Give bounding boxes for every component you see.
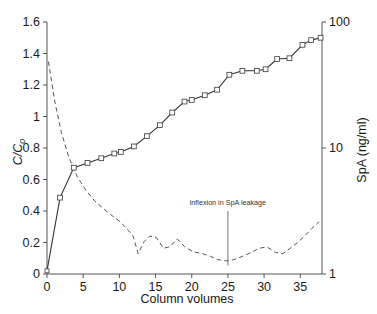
left-tick-label: 1.6 [23, 15, 40, 29]
left-axis-tick-labels: 00.20.40.60.811.21.41.6 [23, 15, 40, 281]
left-tick-label: 0 [33, 267, 40, 281]
data-point-marker [275, 57, 280, 62]
data-point-marker [118, 150, 123, 155]
annotation-inflexion: inflexion in SpA leakage [190, 198, 266, 266]
y-axis-left-title-subscript: o [17, 139, 27, 144]
data-point-marker [131, 144, 136, 149]
right-axis-ticks [322, 22, 326, 274]
chart-container: 00.20.40.60.811.21.41.6 110100 051015202… [0, 0, 377, 314]
axis-left: 00.20.40.60.811.21.41.6 [23, 15, 47, 281]
data-point-marker [85, 161, 90, 166]
left-tick-label: 1.4 [23, 47, 40, 61]
right-axis-tick-labels: 110100 [329, 15, 350, 281]
left-tick-label: 1.2 [23, 78, 40, 92]
left-tick-label: 1 [33, 110, 40, 124]
data-point-marker [144, 134, 149, 139]
y-axis-right-title: SpA (ng/ml) [355, 117, 369, 182]
x-tick-label: 0 [44, 280, 51, 294]
data-point-marker [170, 110, 175, 115]
data-point-marker [157, 123, 162, 128]
data-point-marker [45, 269, 49, 273]
data-point-marker [227, 72, 232, 77]
data-point-marker [58, 195, 63, 200]
left-tick-label: 0.4 [23, 204, 40, 218]
svg-text:C/Co: C/Co [11, 139, 27, 166]
data-point-marker [71, 165, 76, 170]
x-tick-label: 35 [293, 280, 307, 294]
annotation-label-text: inflexion in SpA leakage [190, 198, 266, 207]
right-tick-label: 10 [329, 141, 343, 155]
left-axis-ticks [43, 22, 47, 274]
breakthrough-curve-chart: 00.20.40.60.811.21.41.6 110100 051015202… [0, 0, 377, 314]
axis-bottom: 05101520253035 [44, 274, 322, 294]
x-tick-label: 5 [80, 280, 87, 294]
data-point-marker [189, 98, 194, 103]
data-point-marker [254, 68, 259, 73]
data-point-marker [309, 38, 314, 43]
x-axis-title: Column volumes [140, 292, 233, 306]
y-axis-left-title-text: C/C [11, 143, 25, 166]
y-axis-left-title: C/Co [11, 139, 27, 166]
x-tick-label: 30 [257, 280, 271, 294]
series-breakthrough [45, 35, 323, 273]
data-point-marker [112, 151, 117, 156]
data-point-marker [300, 42, 305, 47]
axis-right: 110100 [322, 15, 350, 281]
data-point-marker [202, 93, 207, 98]
data-point-marker [318, 35, 323, 40]
data-point-marker [182, 99, 187, 104]
right-tick-label: 100 [329, 15, 350, 29]
data-point-marker [240, 68, 245, 73]
data-point-marker [99, 156, 104, 161]
data-point-markers [45, 35, 323, 273]
x-axis-ticks [47, 274, 300, 278]
left-tick-label: 0.2 [23, 236, 40, 250]
right-tick-label: 1 [329, 267, 336, 281]
data-point-marker [215, 87, 220, 92]
data-point-marker [263, 67, 268, 72]
data-point-marker [287, 56, 292, 61]
left-tick-label: 0.6 [23, 173, 40, 187]
x-tick-label: 10 [112, 280, 126, 294]
